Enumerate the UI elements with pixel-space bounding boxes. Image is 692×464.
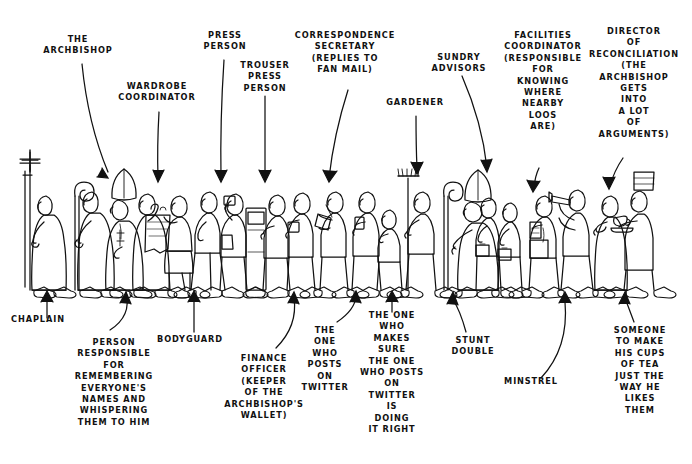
label-line: FOR <box>103 360 125 370</box>
label-line: (RESPONSIBLE <box>504 53 582 63</box>
label-line: ARCHBISHOP <box>43 45 113 55</box>
label-line: FAN MAIL) <box>317 64 372 74</box>
label-line: RECONCILIATION <box>589 49 679 59</box>
label-line: DOING <box>375 413 410 423</box>
label-trouser-press-person: TROUSERPRESSPERSON <box>240 60 290 93</box>
label-line: HIS CUPS <box>615 348 665 358</box>
label-line: GARDENER <box>386 97 444 107</box>
label-line: THEM TO HIM <box>78 417 150 427</box>
label-the-archbishop: THEARCHBISHOP <box>43 34 113 55</box>
label-line: (THE <box>621 60 646 70</box>
label-person-responsible-for-names: PERSONRESPONSIBLEFORREMEMBERINGEVERYONE'… <box>75 337 153 427</box>
label-sundry-advisors: SUNDRYADVISORS <box>432 52 487 73</box>
label-line: SECRETARY <box>315 41 376 51</box>
label-line: POSTS <box>308 359 343 369</box>
label-line: ARGUMENTS) <box>599 129 670 139</box>
label-director-of-reconciliation: DIRECTOROFRECONCILIATION(THEARCHBISHOPGE… <box>589 26 679 139</box>
label-line: TWITTER <box>301 382 348 392</box>
label-line: LOOS <box>529 110 557 120</box>
label-line: RESPONSIBLE <box>77 348 151 358</box>
arrow-the-one-who-posts-on-twitter <box>337 291 361 322</box>
label-line: CHAPLAIN <box>11 314 65 324</box>
label-bodyguard: BODYGUARD <box>157 334 223 344</box>
arrow-gardener <box>411 116 423 174</box>
label-line: LIKES <box>625 393 656 403</box>
label-line: TROUSER <box>240 60 290 70</box>
arrow-wardrobe-coordinator <box>153 112 164 182</box>
label-line: (REPLIES TO <box>312 53 379 63</box>
label-line: GETS <box>620 83 647 93</box>
label-line: PRESS <box>208 30 242 40</box>
arrow-someone-to-make-tea <box>619 292 634 322</box>
label-line: COORDINATOR <box>504 41 581 51</box>
label-line: WALLET) <box>241 410 288 420</box>
arrow-the-archbishop <box>82 64 108 178</box>
label-stunt-double: STUNTDOUBLE <box>452 335 495 356</box>
label-line: SURE <box>378 344 406 354</box>
label-line: PRESS <box>248 71 282 81</box>
label-line: FINANCE <box>241 353 288 363</box>
label-line: PERSON <box>243 83 286 93</box>
label-line: STUNT <box>455 335 490 345</box>
label-line: DOUBLE <box>452 346 495 356</box>
figure-walker <box>174 192 244 298</box>
label-line: OF TEA <box>621 359 659 369</box>
label-line: THE ONE <box>369 356 416 366</box>
label-line: NEARBY <box>522 98 564 108</box>
figure-sundry-advisor-a <box>455 198 523 298</box>
figure-correspondence-secretary <box>300 192 369 298</box>
label-line: WHO <box>312 348 338 358</box>
arrow-trouser-press-person <box>259 96 271 182</box>
label-line: OF <box>627 117 641 127</box>
figure-someone-to-make-tea <box>604 172 676 298</box>
label-someone-to-make-tea: SOMEONETO MAKEHIS CUPSOF TEAJUST THEWAY … <box>614 325 666 415</box>
arrow-finance-officer <box>276 292 299 348</box>
label-line: COORDINATOR <box>118 92 195 102</box>
labels-below-group: CHAPLAINPERSONRESPONSIBLEFORREMEMBERINGE… <box>11 310 666 434</box>
label-line: (KEEPER <box>241 376 286 386</box>
label-the-one-who-posts-on-twitter: THEONEWHOPOSTSONTWITTER <box>301 325 348 392</box>
label-line: ADVISORS <box>432 63 487 73</box>
arrow-minstrel <box>541 292 571 378</box>
label-wardrobe-coordinator: WARDROBECOORDINATOR <box>118 81 195 102</box>
label-line: IT RIGHT <box>368 424 415 434</box>
label-line: IS <box>387 401 398 411</box>
label-line: WAY HE <box>620 382 661 392</box>
label-line: WARDROBE <box>127 81 187 91</box>
label-press-person: PRESSPERSON <box>203 30 246 51</box>
label-line: THE ONE <box>369 310 416 320</box>
label-line: OFFICER <box>241 364 286 374</box>
label-facilities-coordinator: FACILITIESCOORDINATOR(RESPONSIBLEFORKNOW… <box>504 30 582 131</box>
arrow-facilities-coordinator <box>527 168 540 192</box>
figure-minstrel <box>542 190 615 298</box>
label-finance-officer: FINANCEOFFICER(KEEPEROF THEARCHBISHOP'SW… <box>224 353 304 420</box>
labels-above-group: THEARCHBISHOPWARDROBECOORDINATORPRESSPER… <box>43 26 679 139</box>
label-line: MAKES <box>374 333 411 343</box>
label-line: THEM <box>625 405 655 415</box>
cartoon-illustration: THEARCHBISHOPWARDROBECOORDINATORPRESSPER… <box>0 0 692 464</box>
figure-chaplain <box>20 150 76 298</box>
label-line: TWITTER <box>368 390 415 400</box>
label-line: PERSON <box>203 41 246 51</box>
label-line: ARCHBISHOP'S <box>224 399 304 409</box>
label-chaplain: CHAPLAIN <box>11 314 65 324</box>
label-line: CORRESPONDENCE <box>295 30 395 40</box>
label-line: OF <box>627 37 641 47</box>
label-line: EVERYONE'S <box>81 383 147 393</box>
label-line: INTO <box>621 94 647 104</box>
label-line: FOR <box>532 64 554 74</box>
label-line: MINSTREL <box>504 376 558 386</box>
label-line: ARE) <box>530 121 556 131</box>
label-line: FACILITIES <box>514 30 571 40</box>
label-line: DIRECTOR <box>607 26 661 36</box>
label-line: TO MAKE <box>616 336 664 346</box>
arrow-correspondence-secretary <box>323 90 348 182</box>
label-line: SUNDRY <box>437 52 481 62</box>
label-line: OF THE <box>245 387 284 397</box>
arrow-director-of-reconciliation <box>603 158 623 189</box>
label-line: BODYGUARD <box>157 334 223 344</box>
label-line: WHERE <box>524 87 562 97</box>
figure-sundry-advisor-b <box>477 203 544 298</box>
arrow-sundry-advisors <box>462 76 492 172</box>
label-line: A LOT <box>618 106 649 116</box>
